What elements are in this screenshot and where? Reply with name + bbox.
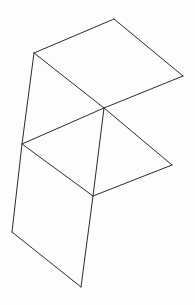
wireframe-figure — [0, 0, 195, 305]
edge-upper-left-to-top-apex — [34, 19, 114, 53]
edge-right-upper-to-center — [104, 76, 183, 108]
edge-lower-mid-to-mid-left — [22, 144, 93, 196]
edge-mid-left-to-center — [22, 108, 104, 144]
edge-left-spine — [12, 53, 34, 232]
edge-center-spine — [81, 108, 104, 287]
edge-bottom-left-to-bottom-apex — [12, 232, 81, 287]
edge-top-apex-to-right-upper — [114, 19, 183, 76]
edge-right-mid-to-lower-mid — [93, 165, 172, 196]
edge-center-to-right-mid — [104, 108, 172, 165]
figure-canvas — [0, 0, 195, 305]
edge-center-to-upper-left — [34, 53, 104, 108]
